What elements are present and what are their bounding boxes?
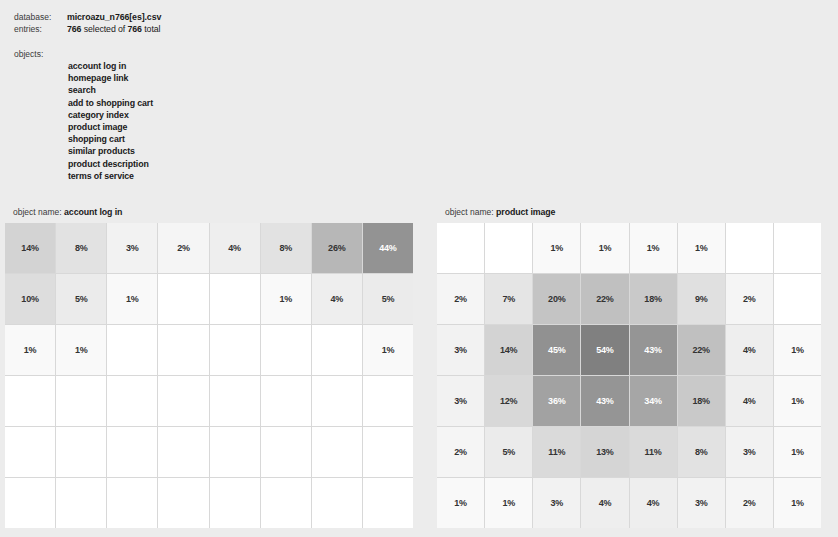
heatmap-cell[interactable]: 1% (5, 325, 55, 375)
heatmap-cell[interactable]: 1% (630, 223, 677, 273)
heatmap-cell[interactable]: 43% (581, 376, 628, 426)
heatmap-cell[interactable] (312, 325, 362, 375)
heatmap-cell[interactable]: 4% (726, 325, 773, 375)
heatmap-cell[interactable]: 4% (726, 376, 773, 426)
heatmap-cell[interactable]: 45% (533, 325, 580, 375)
heatmap-cell[interactable] (437, 223, 484, 273)
heatmap-cell[interactable]: 9% (678, 274, 725, 324)
heatmap-cell[interactable] (363, 427, 413, 477)
heatmap-cell[interactable]: 4% (210, 223, 260, 273)
heatmap-cell[interactable] (312, 376, 362, 426)
heatmap-cell[interactable] (210, 427, 260, 477)
heatmap-cell[interactable] (774, 274, 821, 324)
heatmap-cell[interactable] (107, 478, 157, 528)
heatmap-cell[interactable] (312, 427, 362, 477)
heatmap-cell[interactable]: 1% (774, 478, 821, 528)
heatmap-cell[interactable] (158, 478, 208, 528)
heatmap-cell[interactable] (56, 376, 106, 426)
heatmap-cell[interactable]: 18% (678, 376, 725, 426)
heatmap-cell[interactable] (158, 427, 208, 477)
heatmap-cell[interactable]: 36% (533, 376, 580, 426)
heatmap-cell[interactable]: 1% (678, 223, 725, 273)
heatmap-cell[interactable]: 8% (56, 223, 106, 273)
heatmap-cell[interactable]: 1% (261, 274, 311, 324)
object-list-item[interactable]: homepage link (68, 72, 153, 84)
heatmap-cell[interactable] (210, 274, 260, 324)
heatmap-cell[interactable]: 4% (312, 274, 362, 324)
heatmap-cell[interactable] (363, 376, 413, 426)
heatmap-cell[interactable]: 5% (56, 274, 106, 324)
heatmap-cell[interactable]: 14% (5, 223, 55, 273)
heatmap-cell[interactable]: 8% (261, 223, 311, 273)
heatmap-cell[interactable]: 3% (437, 376, 484, 426)
heatmap-cell[interactable]: 1% (533, 223, 580, 273)
heatmap-cell[interactable] (5, 427, 55, 477)
heatmap-cell[interactable]: 2% (437, 427, 484, 477)
heatmap-cell[interactable]: 13% (581, 427, 628, 477)
heatmap-cell[interactable]: 3% (678, 478, 725, 528)
heatmap-cell[interactable]: 44% (363, 223, 413, 273)
heatmap-cell[interactable]: 1% (437, 478, 484, 528)
heatmap-cell[interactable]: 3% (107, 223, 157, 273)
heatmap-cell[interactable]: 3% (726, 427, 773, 477)
heatmap-cell[interactable]: 2% (158, 223, 208, 273)
heatmap-cell[interactable] (363, 478, 413, 528)
object-list-item[interactable]: terms of service (68, 170, 153, 182)
heatmap-cell[interactable]: 7% (485, 274, 532, 324)
heatmap-cell[interactable]: 2% (726, 478, 773, 528)
heatmap-cell[interactable] (485, 223, 532, 273)
object-list-item[interactable]: account log in (68, 60, 153, 72)
heatmap-cell[interactable]: 10% (5, 274, 55, 324)
heatmap-cell[interactable]: 4% (630, 478, 677, 528)
heatmap-cell[interactable] (210, 376, 260, 426)
heatmap-cell[interactable] (210, 325, 260, 375)
heatmap-cell[interactable] (107, 427, 157, 477)
heatmap-cell[interactable] (56, 478, 106, 528)
heatmap-cell[interactable] (158, 325, 208, 375)
heatmap-cell[interactable] (158, 274, 208, 324)
heatmap-cell[interactable]: 22% (581, 274, 628, 324)
heatmap-cell[interactable]: 5% (363, 274, 413, 324)
heatmap-cell[interactable]: 43% (630, 325, 677, 375)
heatmap-cell[interactable]: 1% (485, 478, 532, 528)
heatmap-cell[interactable] (726, 223, 773, 273)
heatmap-cell[interactable]: 8% (678, 427, 725, 477)
heatmap-cell[interactable] (261, 376, 311, 426)
heatmap-cell[interactable]: 4% (581, 478, 628, 528)
heatmap-cell[interactable]: 1% (581, 223, 628, 273)
heatmap-cell[interactable]: 1% (774, 376, 821, 426)
object-list-item[interactable]: add to shopping cart (68, 97, 153, 109)
heatmap-cell[interactable]: 20% (533, 274, 580, 324)
heatmap-cell[interactable] (107, 325, 157, 375)
heatmap-cell[interactable] (210, 478, 260, 528)
object-list-item[interactable]: product image (68, 121, 153, 133)
heatmap-cell[interactable]: 5% (485, 427, 532, 477)
heatmap-cell[interactable]: 1% (774, 325, 821, 375)
heatmap-cell[interactable]: 2% (726, 274, 773, 324)
heatmap-cell[interactable] (5, 376, 55, 426)
object-list-item[interactable]: product description (68, 158, 153, 170)
heatmap-cell[interactable]: 2% (437, 274, 484, 324)
heatmap-cell[interactable] (107, 376, 157, 426)
heatmap-cell[interactable]: 18% (630, 274, 677, 324)
heatmap-cell[interactable]: 11% (533, 427, 580, 477)
heatmap-cell[interactable]: 54% (581, 325, 628, 375)
heatmap-cell[interactable]: 14% (485, 325, 532, 375)
object-list-item[interactable]: search (68, 84, 153, 96)
heatmap-cell[interactable]: 11% (630, 427, 677, 477)
heatmap-cell[interactable]: 1% (363, 325, 413, 375)
object-list-item[interactable]: category index (68, 109, 153, 121)
heatmap-cell[interactable]: 1% (774, 427, 821, 477)
heatmap-cell[interactable]: 34% (630, 376, 677, 426)
heatmap-cell[interactable] (56, 427, 106, 477)
object-list-item[interactable]: shopping cart (68, 133, 153, 145)
heatmap-cell[interactable] (5, 478, 55, 528)
heatmap-cell[interactable] (312, 478, 362, 528)
heatmap-cell[interactable] (261, 427, 311, 477)
heatmap-cell[interactable]: 12% (485, 376, 532, 426)
heatmap-cell[interactable]: 3% (437, 325, 484, 375)
heatmap-cell[interactable] (261, 325, 311, 375)
heatmap-cell[interactable]: 1% (56, 325, 106, 375)
heatmap-cell[interactable]: 1% (107, 274, 157, 324)
heatmap-cell[interactable] (774, 223, 821, 273)
